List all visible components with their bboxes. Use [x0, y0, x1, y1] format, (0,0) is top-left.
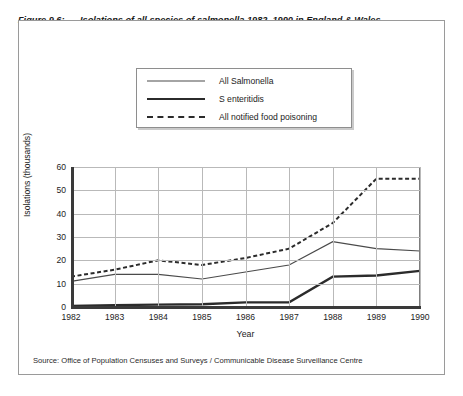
legend-label: S enteritidis: [219, 94, 264, 104]
legend-item-all-salmonella: All Salmonella: [147, 72, 273, 90]
legend-swatch-thick-line-icon: [147, 94, 205, 104]
y-axis-tick-label: 10: [46, 279, 66, 289]
x-axis-tick-label: 1983: [95, 312, 135, 322]
x-axis-title: Year: [71, 329, 420, 339]
y-axis-tick-label: 0: [46, 302, 66, 312]
x-axis-tick-label: 1987: [269, 312, 309, 322]
y-axis-line: [71, 167, 74, 308]
x-axis-tick-label: 1990: [400, 312, 440, 322]
gridline-vertical: [202, 167, 203, 307]
y-axis-title: Isolations (thousands): [22, 110, 32, 240]
gridline-vertical: [420, 167, 421, 307]
x-axis-tick-label: 1989: [356, 312, 396, 322]
chart-legend: All Salmonella S enteritidis All notifie…: [136, 68, 352, 128]
gridline-vertical: [246, 167, 247, 307]
gridline-vertical: [289, 167, 290, 307]
legend-item-food-poisoning: All notified food poisoning: [147, 108, 317, 126]
legend-item-s-enteritidis: S enteritidis: [147, 90, 264, 108]
x-axis-tick-labels: 198219831984198519861987198819891990: [71, 312, 420, 326]
legend-label: All notified food poisoning: [219, 112, 317, 122]
legend-swatch-line-icon: [147, 76, 205, 86]
y-axis-tick-label: 60: [46, 162, 66, 172]
x-axis-tick-label: 1982: [51, 312, 91, 322]
x-axis-tick-label: 1984: [138, 312, 178, 322]
legend-label: All Salmonella: [219, 76, 273, 86]
gridline-vertical: [115, 167, 116, 307]
x-axis-tick-label: 1986: [226, 312, 266, 322]
x-axis-tick-label: 1988: [313, 312, 353, 322]
x-axis-line: [71, 306, 421, 309]
gridline-vertical: [333, 167, 334, 307]
source-note: Source: Office of Population Censuses an…: [33, 356, 363, 365]
y-axis-tick-label: 20: [46, 255, 66, 265]
y-axis-tick-label: 30: [46, 232, 66, 242]
y-axis-tick-labels: 0102030405060: [44, 167, 66, 307]
gridline-vertical: [376, 167, 377, 307]
legend-swatch-dashed-line-icon: [147, 112, 205, 122]
y-axis-tick-label: 40: [46, 209, 66, 219]
gridline-vertical: [158, 167, 159, 307]
x-axis-tick-label: 1985: [182, 312, 222, 322]
y-axis-tick-label: 50: [46, 185, 66, 195]
chart-plot-area: [71, 167, 420, 307]
